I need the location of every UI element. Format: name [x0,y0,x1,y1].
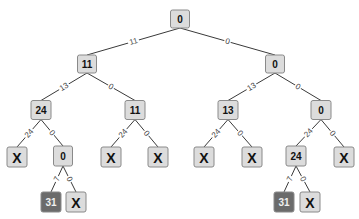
tree-edge: 0 [321,120,344,148]
tree-node: 24 [31,101,51,120]
svg-text:13: 13 [245,80,258,93]
x-mark-icon: X [199,150,209,166]
edge-label: 0 [106,81,116,92]
x-mark-icon: X [247,150,257,166]
edge-label: 13 [244,80,258,93]
x-mark-icon: X [71,195,81,211]
edge-label: 0 [297,174,308,184]
edge-label: 0 [64,174,75,184]
tree-edge: 24 [17,120,41,148]
node-value: 0 [177,14,183,25]
tree-node-pruned: X [334,147,354,167]
tree-edge: 13 [228,73,275,101]
tree-edge: 0 [63,166,76,192]
edge-label: 0 [141,128,152,139]
tree-node: 0 [171,10,190,28]
tree-edge: 24 [296,120,321,147]
node-value: 0 [272,59,278,70]
node-value: 11 [130,105,141,116]
tree-diagram: 1101301302402402402407070 01102411130X0X… [0,0,359,219]
tree-edge: 0 [41,120,63,147]
x-mark-icon: X [153,150,163,166]
edge-label: 7 [285,174,296,184]
tree-node-pruned: X [300,192,320,212]
edges-layer: 1101301302402402402407070 [17,28,344,192]
tree-node: 0 [266,55,285,73]
node-value: 0 [60,151,66,162]
node-value: 0 [318,105,324,116]
tree-node-pruned: X [194,147,214,167]
tree-edge: 13 [41,73,87,101]
tree-node: 13 [218,101,238,120]
tree-edge: 11 [87,28,180,55]
tree-edge: 0 [228,120,252,148]
edge-label: 0 [223,36,232,46]
tree-edge: 24 [111,120,135,148]
x-mark-icon: X [12,150,22,166]
node-value: 24 [35,105,47,116]
tree-edge: 7 [284,166,296,192]
svg-text:13: 13 [58,80,71,93]
tree-edge: 0 [275,73,321,101]
tree-node-pruned: X [7,147,27,167]
tree-node-highlighted: 31 [41,192,61,212]
tree-node-pruned: X [242,147,262,167]
node-value: 24 [290,151,302,162]
node-value: 11 [82,59,93,70]
tree-edge: 0 [296,166,310,192]
x-mark-icon: X [339,150,349,166]
tree-edge: 0 [87,73,135,101]
tree-node-pruned: X [66,192,86,212]
tree-node: 11 [78,55,97,73]
tree-edge: 7 [51,166,63,192]
node-value: 31 [278,197,290,208]
edge-label: 7 [52,174,63,184]
tree-edge: 0 [180,28,275,55]
x-mark-icon: X [305,195,315,211]
edge-label: 13 [57,80,71,93]
tree-node-pruned: X [101,147,121,167]
tree-edge: 24 [204,120,228,148]
edge-label: 0 [293,81,303,92]
x-mark-icon: X [106,150,116,166]
tree-node: 24 [286,146,306,166]
node-value: 13 [222,105,234,116]
tree-node-highlighted: 31 [274,192,294,212]
tree-edge: 0 [135,120,158,148]
tree-node: 11 [125,101,145,120]
tree-node: 0 [54,146,73,166]
edge-label: 0 [46,127,57,138]
edge-label: 11 [127,36,140,48]
tree-node-pruned: X [148,147,168,167]
edge-label: 0 [327,128,338,139]
node-value: 31 [45,197,57,208]
tree-node: 0 [311,101,331,120]
